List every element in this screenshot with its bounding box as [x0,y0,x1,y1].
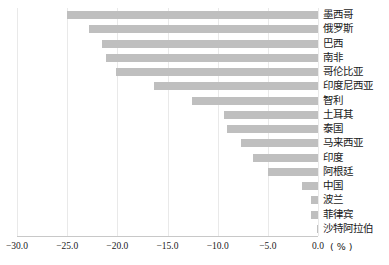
category-label: 印度尼西亚 [323,80,373,91]
bar [302,182,318,190]
x-tick-label: −30.0 [6,241,28,252]
bar [116,68,318,76]
bar [224,111,318,119]
category-label: 泰国 [323,123,343,134]
bar [89,25,318,33]
category-label: 哥伦比亚 [323,66,363,77]
category-label: 巴西 [323,38,343,49]
x-tick-label: −15.0 [157,241,179,252]
bar [192,97,318,105]
category-label: 沙特阿拉伯 [323,223,373,234]
bar-row [17,165,318,179]
bar-row [17,37,318,51]
bar-row [17,208,318,222]
bar [241,139,318,147]
bar-row [17,151,318,165]
x-tick-label: 0.0 [312,241,324,252]
x-axis-line [17,236,318,237]
bar-row [17,8,318,22]
category-label: 印度 [323,152,343,163]
bar-chart: 墨西哥俄罗斯巴西南非哥伦比亚印度尼西亚智利土耳其泰国马来西亚印度阿根廷中国波兰菲… [0,0,389,265]
bar [311,211,318,219]
bar-row [17,65,318,79]
category-label: 土耳其 [323,109,353,120]
category-label: 智利 [323,95,343,106]
plot-area [17,8,318,236]
category-label: 波兰 [323,194,343,205]
category-label: 南非 [323,52,343,63]
axis-unit-label: ( % ) [330,241,352,252]
category-label: 俄罗斯 [323,23,353,34]
category-label: 阿根廷 [323,166,353,177]
bar-row [17,22,318,36]
category-label: 菲律宾 [323,209,353,220]
bar [227,125,318,133]
bar [311,196,318,204]
bar-row [17,79,318,93]
x-tick-label: −25.0 [56,241,78,252]
bar-row [17,222,318,236]
bar-row [17,136,318,150]
x-tick-label: −10.0 [207,241,229,252]
bar [253,154,318,162]
bar [154,82,318,90]
category-label: 中国 [323,180,343,191]
bar-row [17,94,318,108]
bar [106,54,318,62]
bar [317,225,318,233]
bar-row [17,108,318,122]
bar [67,11,318,19]
gridline [318,8,319,236]
bar [102,40,318,48]
x-tick-label: −5.0 [259,241,276,252]
category-label: 墨西哥 [323,9,353,20]
bar [268,168,318,176]
bar-row [17,179,318,193]
bar-row [17,122,318,136]
category-label: 马来西亚 [323,137,363,148]
bar-row [17,51,318,65]
bar-row [17,193,318,207]
x-tick-label: −20.0 [106,241,128,252]
